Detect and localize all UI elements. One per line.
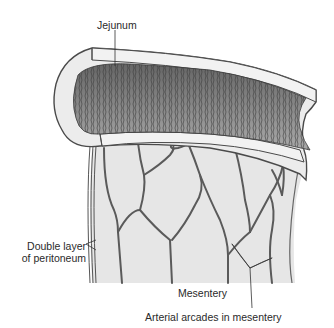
label-double-layer-peritoneum: Double layer of peritoneum: [16, 240, 86, 264]
jejunum-mesentery-diagram: Jejunum Double layer of peritoneum Mesen…: [0, 0, 334, 328]
diagram-illustration: [0, 0, 334, 328]
label-arterial-arcades: Arterial arcades in mesentery: [145, 311, 282, 323]
label-mesentery: Mesentery: [178, 287, 227, 299]
label-double-layer-line2: of peritoneum: [16, 252, 86, 264]
label-jejunum: Jejunum: [97, 19, 137, 31]
label-double-layer-line1: Double layer: [16, 240, 86, 252]
